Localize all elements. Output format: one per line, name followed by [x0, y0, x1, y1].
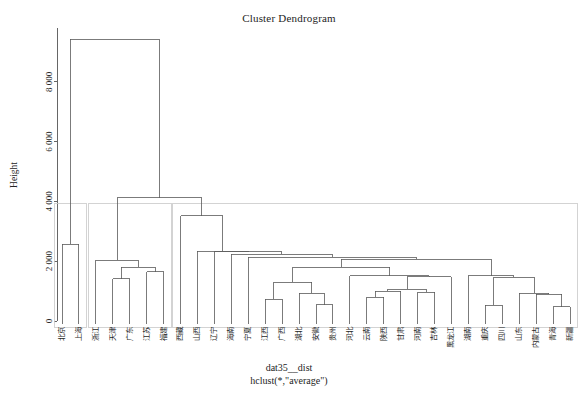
- leaf-label: 青海: [548, 326, 557, 341]
- cluster-cut-box: [173, 204, 578, 327]
- leaf-label: 黑龙江: [446, 326, 455, 348]
- leaf-label: 吉林: [429, 326, 438, 341]
- leaf-label: 广东: [125, 327, 134, 341]
- y-axis-tick-label: 4 000: [44, 191, 54, 212]
- leaf-label: 陕西: [379, 327, 388, 341]
- leaf-label: 天津: [108, 326, 117, 341]
- leaf-label: 江苏: [142, 326, 151, 341]
- leaf-label: 山东: [514, 327, 523, 341]
- leaf-label: 河北: [345, 326, 354, 341]
- leaf-label: 江西: [260, 327, 269, 341]
- y-axis-tick-label: 2 000: [44, 251, 54, 272]
- leaf-label: 宁夏: [243, 326, 252, 341]
- leaf-label: 贵州: [328, 327, 337, 341]
- leaf-label: 山西: [192, 327, 201, 341]
- leaf-label: 甘肃: [396, 327, 405, 341]
- dendrogram-canvas: 02 0004 0006 0008 000北京上海浙江天津广东江苏福建西藏山西辽…: [0, 0, 578, 400]
- leaf-label: 新疆: [565, 326, 574, 341]
- y-axis-tick-label: 0: [44, 318, 54, 323]
- leaf-label: 安徽: [311, 326, 320, 341]
- leaf-label: 重庆: [480, 326, 489, 341]
- y-axis-tick-label: 6 000: [44, 131, 54, 152]
- leaf-label: 福建: [159, 326, 168, 341]
- leaf-label: 云南: [362, 327, 371, 341]
- cluster-dendrogram-plot: Cluster Dendrogram Height 02 0004 0006 0…: [0, 0, 578, 400]
- leaf-label: 内蒙古: [531, 327, 540, 348]
- leaf-label: 湖南: [463, 327, 472, 341]
- x-axis-caption-dataset: dat35__dist: [0, 362, 578, 373]
- y-axis-tick-label: 8 000: [44, 71, 54, 92]
- leaf-label: 海南: [226, 327, 235, 341]
- leaf-label: 西藏: [175, 326, 184, 341]
- leaf-label: 上海: [74, 326, 83, 341]
- leaf-label: 北京: [57, 327, 66, 341]
- leaf-label: 浙江: [91, 326, 100, 341]
- x-axis-caption-method: hclust(*,"average"): [0, 375, 578, 386]
- leaf-label: 四川: [497, 327, 506, 341]
- leaf-label: 辽宁: [209, 327, 218, 341]
- leaf-label: 湖北: [294, 326, 303, 341]
- leaf-label: 河南: [413, 327, 422, 341]
- leaf-label: 广西: [277, 327, 286, 341]
